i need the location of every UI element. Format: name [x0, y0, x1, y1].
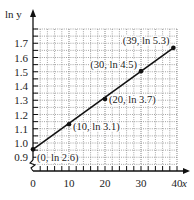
y-tick-label: 1.2 — [14, 109, 28, 121]
axes — [30, 9, 190, 174]
x-tick-label: 30 — [136, 177, 148, 189]
x-tick-label: 20 — [100, 177, 112, 189]
data-point-label: (39, ln 5.3) — [123, 35, 170, 47]
data-point-label: (20, ln 3.7) — [109, 94, 156, 106]
axis-break-icon — [30, 160, 35, 171]
y-axis-arrow-icon — [30, 9, 36, 17]
data-point — [171, 46, 176, 51]
y-axis-title: ln y — [5, 8, 22, 20]
y-tick-label: 0.9 — [14, 151, 28, 163]
y-tick-label: 1.0 — [14, 137, 28, 149]
x-tick-label: 10 — [64, 177, 76, 189]
y-tick-label: 1.4 — [14, 80, 28, 92]
ticks: 0.91.01.11.21.31.41.51.61.7010203040 — [14, 29, 183, 189]
x-axis-title: x — [181, 177, 187, 189]
y-tick-label: 1.7 — [14, 37, 28, 49]
y-tick-label: 1.3 — [14, 94, 28, 106]
data-point-label: (30, ln 4.5) — [90, 59, 137, 71]
chart: 0.91.01.11.21.31.41.51.61.7010203040 (0,… — [0, 0, 194, 200]
x-axis-arrow-icon — [183, 168, 190, 174]
x-tick-label: 0 — [30, 177, 36, 189]
y-tick-label: 1.1 — [14, 123, 28, 135]
data-point-label: (0, ln 2.6) — [37, 152, 79, 164]
y-tick-label: 1.5 — [14, 66, 28, 78]
data-point — [139, 69, 144, 74]
data-point — [31, 147, 36, 152]
data-point — [67, 122, 72, 127]
y-tick-label: 1.6 — [14, 52, 28, 64]
data-point — [103, 97, 108, 102]
data-point-label: (10, ln 3.1) — [73, 121, 120, 133]
